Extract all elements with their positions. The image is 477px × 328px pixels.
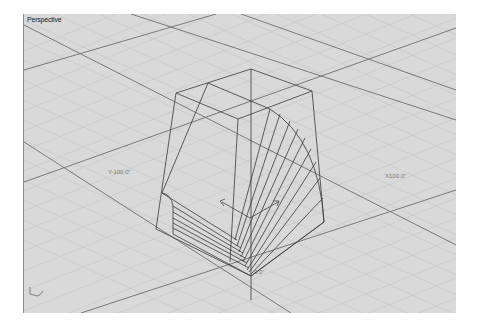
world-axes-icon xyxy=(30,287,43,296)
origin-label: 0.0" xyxy=(254,269,264,275)
viewport-title[interactable]: Perspective xyxy=(27,16,61,23)
scene-canvas[interactable] xyxy=(24,14,456,313)
y-axis-label: Y-100.0" xyxy=(108,169,131,175)
major-grid xyxy=(24,14,456,313)
x-axis-label: X100.0" xyxy=(385,173,406,179)
minor-grid xyxy=(24,14,456,313)
perspective-viewport[interactable]: Perspective Y-100.0" X100.0" 0.0" xyxy=(23,14,456,313)
